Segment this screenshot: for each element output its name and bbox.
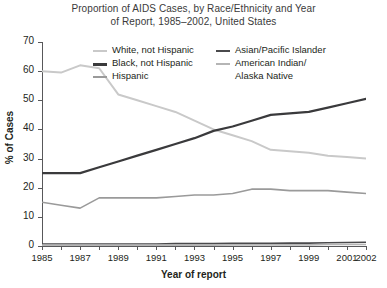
series-line <box>42 242 366 244</box>
x-tick <box>194 246 195 250</box>
series-line <box>42 189 366 208</box>
chart-title-line-2: of Report, 1985–2002, United States <box>0 16 387 29</box>
legend-label: American Indian/Alaska Native <box>235 57 306 82</box>
x-tick <box>347 246 348 250</box>
series-line <box>42 65 366 158</box>
y-tick-label: 20 <box>0 181 34 192</box>
legend-label: Hispanic <box>112 70 148 83</box>
legend-item: Hispanic <box>93 70 194 83</box>
x-tick-label: 1991 <box>136 252 176 263</box>
y-tick-label: 0 <box>0 239 34 250</box>
x-tick-label: 1997 <box>251 252 291 263</box>
y-tick-label: 40 <box>0 122 34 133</box>
legend-item: Black, not Hispanic <box>93 57 194 70</box>
x-tick <box>118 246 119 250</box>
legend-swatch-icon <box>93 50 107 52</box>
x-tick-label: 1987 <box>60 252 100 263</box>
legend-label: Black, not Hispanic <box>112 57 193 70</box>
legend-item: White, not Hispanic <box>93 44 194 57</box>
y-tick <box>38 217 42 218</box>
x-tick <box>61 246 62 250</box>
x-tick <box>175 246 176 250</box>
x-tick-label: 1993 <box>174 252 214 263</box>
x-tick <box>156 246 157 250</box>
x-tick <box>80 246 81 250</box>
legend-label: Asian/Pacific Islander <box>235 44 326 57</box>
x-tick <box>233 246 234 250</box>
y-tick <box>38 42 42 43</box>
chart-title: Proportion of AIDS Cases, by Race/Ethnic… <box>0 3 387 28</box>
y-tick-label: 60 <box>0 64 34 75</box>
x-axis-line <box>42 246 367 247</box>
y-tick <box>38 71 42 72</box>
y-tick-label: 70 <box>0 35 34 46</box>
legend-label-line-2: Alaska Native <box>235 70 306 83</box>
aids-cases-line-chart: Proportion of AIDS Cases, by Race/Ethnic… <box>0 0 387 288</box>
x-tick <box>214 246 215 250</box>
y-tick-label: 10 <box>0 210 34 221</box>
legend-label: White, not Hispanic <box>112 44 194 57</box>
y-tick <box>38 129 42 130</box>
x-tick-label: 1995 <box>213 252 253 263</box>
x-tick <box>99 246 100 250</box>
legend-column-left: White, not HispanicBlack, not HispanicHi… <box>93 44 194 83</box>
series-lines <box>42 42 366 246</box>
x-tick <box>271 246 272 250</box>
y-tick <box>38 100 42 101</box>
legend-swatch-icon <box>216 63 230 65</box>
y-tick <box>38 159 42 160</box>
x-tick <box>137 246 138 250</box>
x-tick <box>290 246 291 250</box>
y-tick-label: 30 <box>0 152 34 163</box>
legend-swatch-icon <box>93 76 107 78</box>
x-tick-label: 1999 <box>289 252 329 263</box>
legend-column-right: Asian/Pacific IslanderAmerican Indian/Al… <box>216 44 326 70</box>
chart-title-line-1: Proportion of AIDS Cases, by Race/Ethnic… <box>0 3 387 16</box>
y-tick <box>38 246 42 247</box>
legend-swatch-icon <box>216 50 230 52</box>
y-tick <box>38 188 42 189</box>
x-tick-label: 1989 <box>98 252 138 263</box>
x-tick <box>328 246 329 250</box>
legend-item: Asian/Pacific Islander <box>216 44 326 57</box>
x-tick-label: 2002 <box>346 252 386 263</box>
series-line <box>42 245 366 246</box>
y-tick-label: 50 <box>0 93 34 104</box>
x-axis-title: Year of report <box>0 269 387 280</box>
x-tick-label: 1985 <box>22 252 62 263</box>
x-tick <box>42 246 43 250</box>
series-line <box>42 99 366 173</box>
x-tick <box>309 246 310 250</box>
plot-area <box>42 42 366 246</box>
x-tick <box>252 246 253 250</box>
x-tick <box>366 246 367 250</box>
legend-item: American Indian/Alaska Native <box>216 57 326 70</box>
legend-swatch-icon <box>93 63 107 66</box>
